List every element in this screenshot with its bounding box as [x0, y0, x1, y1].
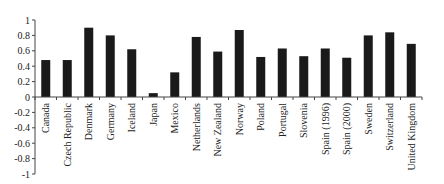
x-category-label: Canada — [40, 102, 51, 133]
bar — [213, 52, 222, 97]
y-tick-label: 0 — [25, 92, 30, 103]
x-category-label: Czech Republic — [62, 102, 73, 166]
x-category-label: Spain (2000) — [341, 103, 353, 155]
bar — [321, 48, 330, 97]
bar — [278, 48, 287, 97]
y-tick-label: -0.4 — [14, 122, 30, 133]
y-tick-label: 0.4 — [18, 61, 31, 72]
x-category-label: Switzerland — [384, 103, 395, 151]
y-tick-label: 0.2 — [18, 76, 31, 87]
x-category-label: Norway — [234, 103, 245, 135]
y-tick-label: 1 — [25, 15, 30, 26]
x-category-label: Poland — [255, 103, 266, 131]
bar — [407, 44, 416, 97]
bar — [127, 49, 136, 97]
bar — [106, 35, 115, 97]
bar-chart: 10.80.60.40.20-0.2-0.4-0.6-0.8-1 CanadaC… — [0, 0, 444, 184]
x-category-label: Germany — [105, 103, 116, 140]
x-category-label: Slovenia — [298, 102, 309, 138]
x-category-label: Netherlands — [191, 103, 202, 151]
x-category-label: Japan — [148, 103, 159, 126]
x-category-label: Sweden — [363, 103, 374, 135]
bar — [364, 35, 373, 97]
bar — [235, 30, 244, 97]
bar — [342, 58, 351, 97]
y-tick-label: 0.6 — [18, 45, 31, 56]
bar — [63, 60, 72, 97]
bar — [149, 93, 158, 97]
bar — [299, 56, 308, 97]
y-tick-label: -0.2 — [14, 107, 30, 118]
x-category-label: Portugal — [277, 103, 288, 137]
y-tick-label: 0.8 — [18, 30, 31, 41]
y-tick-label: -0.8 — [14, 153, 30, 164]
bar — [170, 72, 179, 97]
x-axis: CanadaCzech RepublicDenmarkGermanyIcelan… — [35, 97, 422, 171]
bar — [192, 37, 201, 97]
bar — [84, 28, 93, 97]
x-category-label: Mexico — [169, 103, 180, 134]
bar — [385, 32, 394, 97]
y-axis: 10.80.60.40.20-0.2-0.4-0.6-0.8-1 — [14, 15, 35, 180]
x-category-label: New Zealand — [212, 103, 223, 157]
x-category-label: Denmark — [83, 103, 94, 140]
x-category-label: United Kingdom — [406, 103, 417, 171]
bar — [256, 57, 265, 97]
y-tick-label: -1 — [22, 169, 30, 180]
y-tick-label: -0.6 — [14, 138, 30, 149]
x-category-label: Iceland — [126, 103, 137, 132]
bars — [41, 28, 416, 97]
x-category-label: Spain (1996) — [320, 103, 332, 155]
bar — [41, 60, 50, 97]
